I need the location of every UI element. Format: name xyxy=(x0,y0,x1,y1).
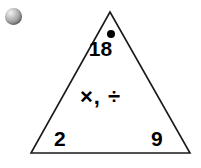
bottom-left-vertex-value: 2 xyxy=(54,128,66,149)
operators-label: ×, ÷ xyxy=(0,86,201,108)
top-vertex-value: 18 xyxy=(0,38,201,59)
diagram-canvas: 18 ×, ÷ 2 9 xyxy=(0,0,201,168)
bottom-right-vertex-value: 9 xyxy=(151,128,163,149)
